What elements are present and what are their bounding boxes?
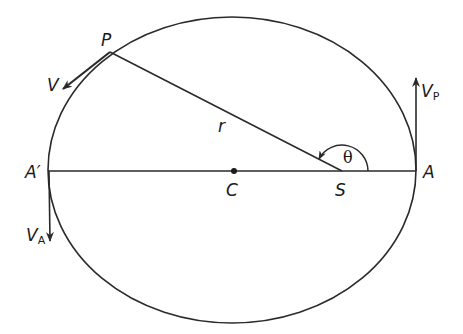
center-point-c [231,168,237,174]
velocity-va-arrow [49,171,50,241]
velocity-v-arrow [63,52,110,89]
label-s: S [335,180,346,200]
label-c: C [226,180,238,200]
label-v: V [47,75,60,95]
label-vp-sub: P [433,90,440,103]
label-va: VA [26,225,46,247]
label-r: r [218,116,226,136]
radius-vector-line [110,52,342,171]
label-a: A [422,162,435,182]
label-va-sub: A [38,234,46,247]
label-theta: θ [343,148,353,167]
orbit-diagram: P V VP A A′ VA C S r θ [0,0,463,334]
label-a-prime: A′ [24,162,41,182]
label-vp: VP [421,81,440,103]
label-p: P [101,30,112,50]
